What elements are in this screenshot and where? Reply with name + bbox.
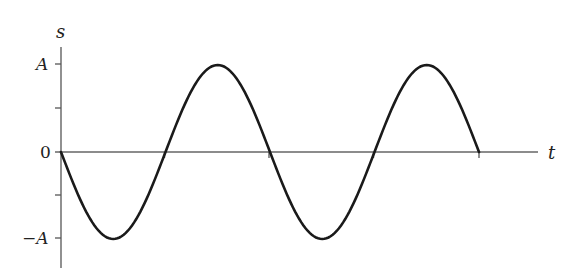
y-axis-label: s (56, 21, 65, 42)
y-ticks (55, 64, 61, 238)
sine-wave-chart: s t A 0 −A (0, 0, 574, 275)
y-tick-label-zero: 0 (40, 142, 51, 162)
x-ticks (165, 152, 480, 158)
y-tick-label-neg-A: −A (22, 228, 49, 248)
y-tick-label-A: A (34, 54, 48, 74)
x-axis-label: t (548, 142, 556, 163)
